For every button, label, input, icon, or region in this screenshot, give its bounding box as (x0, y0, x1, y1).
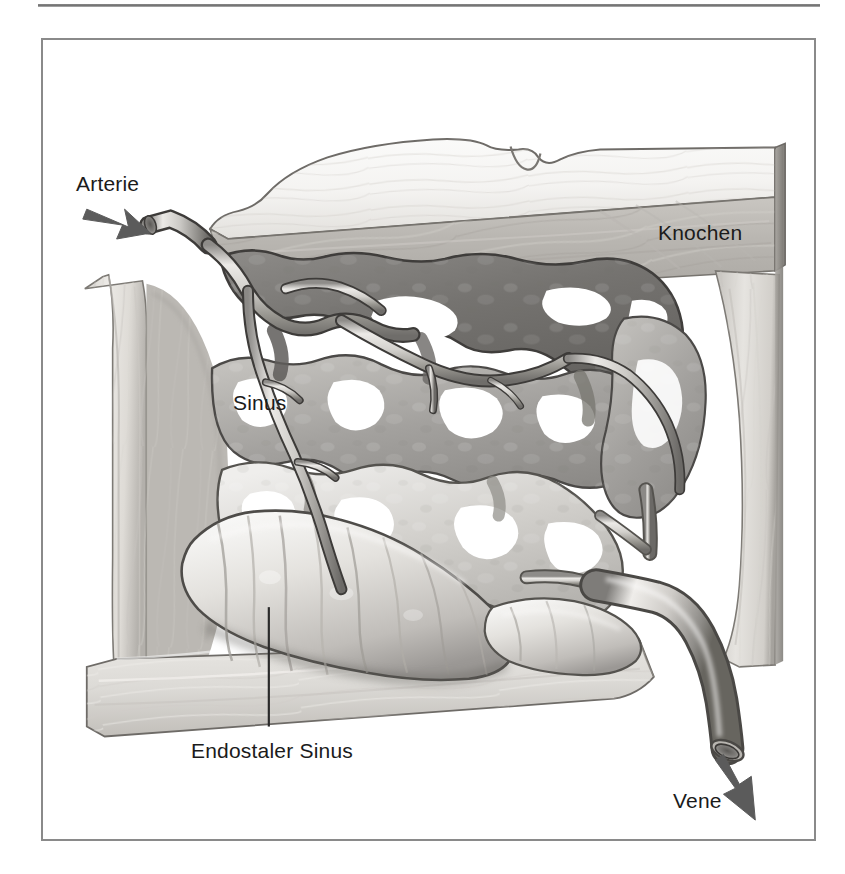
label-vene: Vene (673, 790, 722, 811)
label-sinus: Sinus (233, 392, 287, 413)
figure-frame: Arterie Knochen Sinus Endostaler Sinus V… (41, 38, 816, 841)
page-root: Arterie Knochen Sinus Endostaler Sinus V… (0, 0, 845, 874)
label-knochen: Knochen (658, 222, 742, 243)
label-endostaler-sinus: Endostaler Sinus (191, 740, 353, 761)
label-arterie: Arterie (76, 173, 139, 194)
bone-marrow-illustration (43, 40, 814, 839)
header-rule (38, 4, 820, 7)
